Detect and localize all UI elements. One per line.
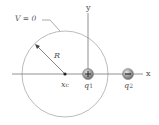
- center-label: xc: [61, 81, 69, 89]
- charge-q2: [123, 69, 134, 80]
- q2-label: q2: [124, 82, 133, 90]
- x-axis-label: x: [146, 70, 151, 78]
- q2-label-subscript: 2: [129, 82, 133, 89]
- y-axis-label: y: [86, 4, 91, 12]
- charge-q1: [83, 69, 94, 80]
- radius-line: [37, 46, 65, 74]
- center-dot: [63, 72, 66, 75]
- v-label-leader: [42, 20, 60, 31]
- equipotential-label: V = 0: [15, 15, 36, 23]
- radius-label: R: [54, 52, 60, 60]
- q1-label: q1: [84, 82, 93, 90]
- center-label-subscript: c: [66, 81, 69, 88]
- q1-label-subscript: 1: [89, 82, 93, 89]
